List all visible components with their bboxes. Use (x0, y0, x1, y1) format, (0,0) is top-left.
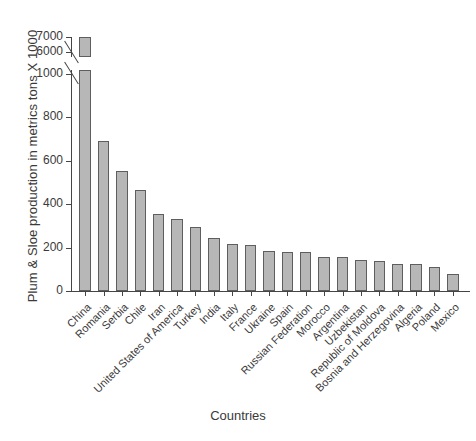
x-axis-tick-mark (140, 292, 141, 296)
bar (79, 70, 90, 291)
y-axis-tick-mark (66, 74, 71, 75)
y-axis-tick-label: 1000 (7, 66, 63, 80)
bar (171, 219, 182, 291)
x-axis-tick-mark (287, 292, 288, 296)
bar (447, 274, 458, 291)
y-axis-tick-label: 600 (7, 153, 63, 167)
x-axis-tick-mark (306, 292, 307, 296)
bar (374, 261, 385, 291)
x-axis-line (71, 291, 470, 292)
bar (282, 252, 293, 291)
x-axis-tick-mark (232, 292, 233, 296)
y-axis-tick-mark (66, 117, 71, 118)
bar (337, 257, 348, 291)
bar (355, 260, 366, 291)
bar (79, 37, 90, 57)
y-axis-tick-mark (66, 291, 71, 292)
bar (190, 227, 201, 291)
x-axis-tick-mark (177, 292, 178, 296)
x-axis-tick-mark (122, 292, 123, 296)
bar (429, 267, 440, 291)
x-axis-tick-mark (453, 292, 454, 296)
y-axis-tick-label: 400 (7, 196, 63, 210)
y-axis-tick-label: 7000 (7, 29, 63, 43)
bar (263, 251, 274, 291)
bar (98, 141, 109, 291)
x-axis-tick-mark (214, 292, 215, 296)
x-axis-tick-mark (343, 292, 344, 296)
x-axis-tick-mark (324, 292, 325, 296)
x-axis-tick-mark (398, 292, 399, 296)
bar-chart: Plum & Sloe production in metrics tons X… (0, 0, 476, 441)
y-axis-tick-mark (66, 37, 71, 38)
bar (153, 214, 164, 291)
y-axis-tick-label: 0 (7, 283, 63, 297)
bar (392, 264, 403, 291)
bar (227, 244, 238, 291)
x-axis-tick-mark (159, 292, 160, 296)
bar (300, 252, 311, 291)
bar (245, 245, 256, 291)
x-axis-tick-mark (85, 292, 86, 296)
x-axis-tick-mark (416, 292, 417, 296)
y-axis-tick-label: 6000 (7, 44, 63, 58)
y-axis-tick-mark (66, 161, 71, 162)
x-axis-tick-mark (434, 292, 435, 296)
y-axis-tick-label: 200 (7, 240, 63, 254)
y-axis-tick-mark (66, 204, 71, 205)
x-axis-tick-mark (251, 292, 252, 296)
y-axis-tick-label: 800 (7, 109, 63, 123)
bar (318, 257, 329, 291)
x-axis-tick-mark (195, 292, 196, 296)
bar (208, 238, 219, 291)
bar (135, 190, 146, 291)
y-axis-tick-mark (66, 248, 71, 249)
x-axis-tick-mark (379, 292, 380, 296)
bar (410, 264, 421, 291)
x-axis-tick-mark (269, 292, 270, 296)
x-axis-tick-mark (361, 292, 362, 296)
bar (116, 171, 127, 291)
y-axis-lower-segment (71, 70, 72, 292)
x-axis-tick-mark (104, 292, 105, 296)
